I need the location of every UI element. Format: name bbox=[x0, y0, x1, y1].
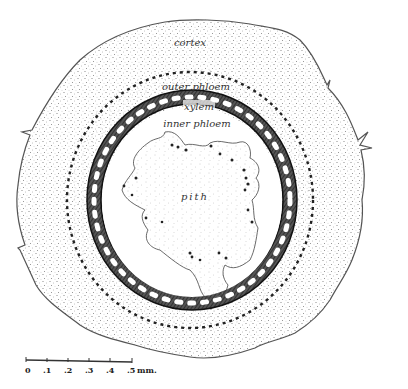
scale-tick-1: .1 bbox=[43, 365, 51, 375]
label-xylem: xylem bbox=[184, 101, 214, 112]
label-pith: pith bbox=[181, 191, 209, 202]
scale-unit: mm. bbox=[137, 365, 157, 375]
scale-bar: 0 .1 .2 .3 .4 .5 mm. bbox=[25, 357, 157, 375]
label-outer-phloem: outer phloem bbox=[162, 81, 230, 92]
label-cortex: cortex bbox=[174, 37, 206, 48]
stem-cross-section-diagram: cortex outer phloem xylem inner phloem p… bbox=[0, 0, 408, 389]
scale-tick-3: .3 bbox=[85, 365, 94, 375]
scale-tick-0: 0 bbox=[25, 365, 31, 375]
scale-tick-2: .2 bbox=[64, 365, 72, 375]
scale-tick-4: .4 bbox=[106, 365, 115, 375]
scale-tick-5: .5 bbox=[127, 365, 135, 375]
label-inner-phloem: inner phloem bbox=[163, 118, 230, 129]
